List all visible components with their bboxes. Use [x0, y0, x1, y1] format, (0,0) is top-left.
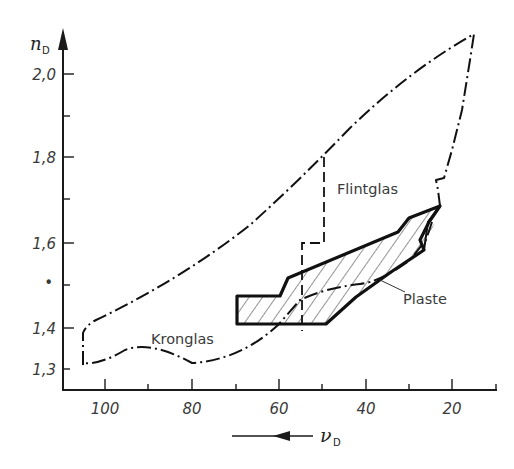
x-tick-label-20: 20 [442, 400, 461, 418]
plaste-leader-line [380, 280, 405, 292]
x-tick-label-60: 60 [269, 400, 288, 418]
x-tick-label-100: 100 [91, 400, 120, 418]
y-tick-label-1.6: 1,6 [32, 235, 56, 253]
arrow-left-icon [273, 431, 290, 441]
y-tick-label-2.0: 2,0 [32, 66, 56, 84]
y-tick-label-1.8: 1,8 [32, 149, 56, 167]
y-tick-label-1.5: • [44, 274, 53, 292]
x-axis: 100 80 60 40 20 ν D [62, 379, 497, 448]
y-axis-symbol: n [30, 33, 42, 54]
flintglas-label: Flintglas [337, 181, 398, 197]
y-tick-label-1.3: 1,3 [32, 361, 56, 379]
y-axis-subscript: D [42, 45, 50, 56]
x-tick-label-40: 40 [356, 400, 375, 418]
x-axis-symbol: ν [320, 424, 332, 446]
y-axis-arrow-icon [58, 28, 68, 50]
abbe-diagram: n D 2,0 1,8 1,6 • 1,4 1,3 100 80 60 40 2… [0, 0, 514, 469]
x-tick-label-80: 80 [182, 400, 201, 418]
x-axis-subscript: D [333, 437, 341, 448]
plaste-label: Plaste [403, 291, 447, 307]
y-tick-label-1.4: 1,4 [32, 320, 56, 338]
kronglas-label: Kronglas [151, 331, 214, 347]
y-axis: n D 2,0 1,8 1,6 • 1,4 1,3 [30, 28, 74, 390]
